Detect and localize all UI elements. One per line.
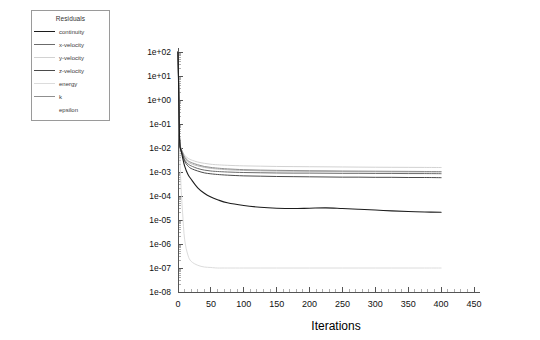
x-axis-title: Iterations bbox=[311, 319, 360, 333]
series-line-z-velocity bbox=[178, 52, 441, 178]
x-tick-label: 450 bbox=[466, 299, 481, 309]
x-tick-label: 200 bbox=[302, 299, 317, 309]
x-tick-label: 300 bbox=[368, 299, 383, 309]
y-tick-label: 1e+01 bbox=[147, 71, 171, 81]
series-line-x-velocity bbox=[178, 52, 441, 174]
series-line-energy bbox=[178, 52, 441, 268]
x-tick-label: 50 bbox=[206, 299, 216, 309]
series-line-epsilon bbox=[178, 52, 441, 172]
y-tick-label: 1e-03 bbox=[149, 167, 171, 177]
x-tick-label: 0 bbox=[175, 299, 180, 309]
y-tick-label: 1e-08 bbox=[149, 287, 171, 297]
series-line-y-velocity bbox=[178, 52, 441, 168]
y-tick-label: 1e-04 bbox=[149, 191, 171, 201]
x-tick-label: 150 bbox=[269, 299, 284, 309]
y-tick-label: 1e+00 bbox=[147, 95, 171, 105]
y-tick-label: 1e-06 bbox=[149, 239, 171, 249]
series-line-k bbox=[178, 52, 441, 172]
y-tick-label: 1e-02 bbox=[149, 143, 171, 153]
plot-canvas: 1e+021e+011e+001e-011e-021e-031e-041e-05… bbox=[0, 0, 540, 340]
x-axis-ticks: 050100150200250300350400450 bbox=[175, 287, 481, 309]
y-tick-label: 1e-01 bbox=[149, 119, 171, 129]
y-tick-label: 1e-07 bbox=[149, 263, 171, 273]
x-tick-label: 400 bbox=[434, 299, 449, 309]
data-series bbox=[178, 52, 441, 268]
y-tick-label: 1e-05 bbox=[149, 215, 171, 225]
y-tick-label: 1e+02 bbox=[147, 47, 171, 57]
x-tick-label: 100 bbox=[236, 299, 251, 309]
residuals-chart: 1e+021e+011e+001e-011e-021e-031e-041e-05… bbox=[0, 0, 540, 340]
x-tick-label: 250 bbox=[335, 299, 350, 309]
series-line-continuity bbox=[178, 52, 441, 212]
x-tick-label: 350 bbox=[401, 299, 416, 309]
